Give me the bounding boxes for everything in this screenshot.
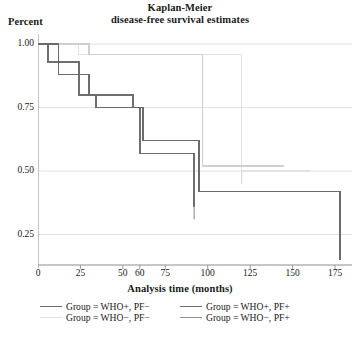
y-tick-label-2: 0.75: [0, 102, 34, 112]
x-tick-label-7: 150: [276, 268, 310, 278]
series-line-0: [38, 44, 340, 260]
x-tick-label-4: 75: [148, 268, 182, 278]
y-tick-label-1: 0.50: [0, 165, 34, 175]
legend-item-0-0[interactable]: Group = WHO+, PF−: [40, 301, 180, 312]
x-tick-label-0: 0: [21, 268, 55, 278]
kaplan-meier-chart: Kaplan-Meier disease-free survival estim…: [0, 0, 360, 339]
legend-item-1-1[interactable]: Group = WHO−, PF+: [180, 312, 320, 323]
legend-row-1: Group = WHO−, PF−Group = WHO−, PF+: [40, 312, 320, 323]
legend-label: Group = WHO−, PF−: [66, 312, 150, 323]
y-tick-label-3: 1.00: [0, 38, 34, 48]
y-axis-label: Percent: [8, 16, 43, 27]
legend-item-0-1[interactable]: Group = WHO+, PF+: [180, 301, 320, 312]
legend-swatch-icon: [180, 317, 202, 318]
legend-label: Group = WHO+, PF+: [206, 301, 290, 312]
legend-item-1-0[interactable]: Group = WHO−, PF−: [40, 312, 180, 323]
y-tick-label-0: 0.25: [0, 229, 34, 239]
chart-title-line1: Kaplan-Meier: [0, 2, 360, 14]
legend-swatch-icon: [40, 317, 62, 318]
x-axis-label: Analysis time (months): [0, 283, 360, 294]
chart-legend: Group = WHO+, PF−Group = WHO+, PF+Group …: [0, 301, 360, 323]
legend-label: Group = WHO+, PF−: [66, 301, 150, 312]
x-tick-label-8: 175: [318, 268, 352, 278]
chart-title: Kaplan-Meier disease-free survival estim…: [0, 2, 360, 25]
series-line-1: [38, 44, 194, 206]
x-tick-label-6: 125: [233, 268, 267, 278]
legend-swatch-icon: [40, 306, 62, 307]
x-tick-label-5: 100: [191, 268, 225, 278]
legend-label: Group = WHO−, PF+: [206, 312, 290, 323]
plot-area: [38, 34, 352, 265]
legend-row-0: Group = WHO+, PF−Group = WHO+, PF+: [40, 301, 320, 312]
chart-subtitle: disease-free survival estimates: [0, 14, 360, 26]
legend-swatch-icon: [180, 306, 202, 307]
x-tick-label-1: 25: [63, 268, 97, 278]
